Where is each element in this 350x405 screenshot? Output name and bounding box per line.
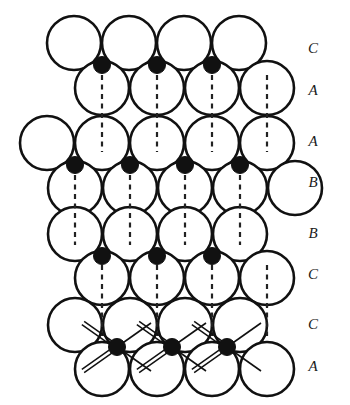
interstitial-atom-dot (67, 157, 84, 174)
interstitial-atom-dot (94, 57, 111, 74)
layer-label-a-1: A (307, 82, 318, 98)
crystal-structure-figure: CAABBCCA (0, 0, 350, 405)
layer-label-c-5: C (308, 266, 319, 282)
layer-label-a-2: A (307, 133, 318, 149)
interstitial-atom-dot (94, 248, 111, 265)
layer-label-a-7: A (307, 358, 318, 374)
layer-label-b-4: B (308, 225, 317, 241)
stacking-diagram-canvas: CAABBCCA (0, 0, 350, 405)
interstitial-atom-dot (204, 248, 221, 265)
interstitial-atom-dot (164, 339, 181, 356)
interstitial-atom-dot (219, 339, 236, 356)
interstitial-atom-dot (122, 157, 139, 174)
interstitial-atom-dot (177, 157, 194, 174)
interstitial-atom-dot (204, 57, 221, 74)
layer-label-b-3: B (308, 174, 317, 190)
sphere (240, 342, 294, 396)
interstitial-atom-dot (149, 57, 166, 74)
interstitial-atom-dot (109, 339, 126, 356)
interstitial-atom-dot (149, 248, 166, 265)
layer-label-c-6: C (308, 316, 319, 332)
interstitial-atom-dot (232, 157, 249, 174)
layer-label-c-0: C (308, 40, 319, 56)
